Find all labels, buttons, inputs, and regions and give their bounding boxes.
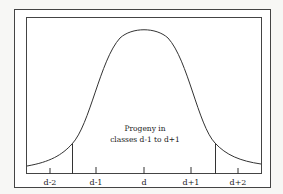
axis-label-d-minus-1: d-1 [90, 178, 103, 187]
annotation-line-2: classes d-1 to d+1 [110, 135, 180, 144]
axis-label-d-plus-1: d+1 [183, 178, 200, 187]
axis-label-d-minus-2: d-2 [44, 178, 57, 187]
plot-frame [27, 18, 262, 174]
axis-label-d: d [141, 178, 146, 187]
axis-label-d-plus-2: d+2 [230, 178, 247, 187]
distribution-diagram: Progeny in classes d-1 to d+1 d-2 d-1 d … [0, 0, 283, 194]
annotation-line-1: Progeny in [124, 124, 165, 133]
